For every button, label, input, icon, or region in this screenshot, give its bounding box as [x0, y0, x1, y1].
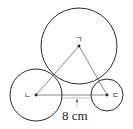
center-dot-left: [35, 94, 38, 97]
label-top: ㄱ: [75, 35, 82, 44]
label-left: ㄴ: [24, 91, 31, 100]
segment-top-left: [36, 46, 79, 95]
label-right: ㄷ: [112, 91, 119, 100]
measurement-label: 8 cm: [62, 108, 88, 123]
center-dot-top: [78, 45, 81, 48]
arrow-head-icon: [76, 99, 79, 102]
tangent-circles-diagram: ㄱ ㄴ ㄷ 8 cm: [0, 0, 133, 129]
center-dot-right: [106, 94, 109, 97]
